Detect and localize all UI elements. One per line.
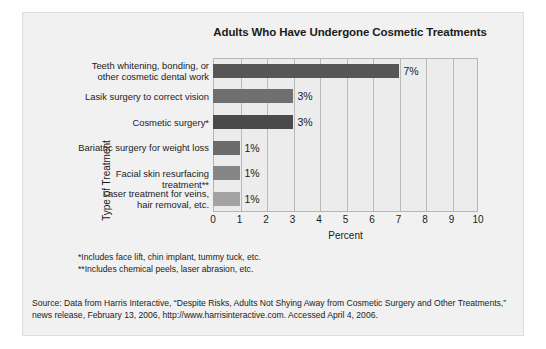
y-axis-category-label: Facial skin resurfacing treatment** — [78, 168, 209, 190]
bar-row: 1% — [213, 186, 478, 212]
x-axis-title: Percent — [213, 230, 478, 241]
y-axis-category-line: Teeth whitening, bonding, or — [78, 60, 209, 71]
x-axis-tick-label: 5 — [333, 214, 359, 225]
x-axis-tick-label: 3 — [280, 214, 306, 225]
y-axis-category-line: other cosmetic dental work — [78, 71, 209, 82]
bar — [213, 192, 240, 206]
x-axis-ticks: 012345678910 — [213, 214, 478, 228]
y-axis-category-line: Lasik surgery to correct vision — [78, 91, 209, 102]
footnote: *Includes face lift, chin implant, tummy… — [78, 252, 261, 264]
bar — [213, 166, 240, 180]
y-axis-category-line: Laser treatment for veins, — [78, 188, 209, 199]
y-axis-category-label: Bariatric surgery for weight loss — [78, 142, 209, 153]
x-axis-tick-label: 4 — [306, 214, 332, 225]
bar-row: 7% — [213, 58, 478, 84]
bar — [213, 89, 293, 103]
footnotes: *Includes face lift, chin implant, tummy… — [78, 252, 261, 275]
y-axis-category-label: Teeth whitening, bonding, orother cosmet… — [78, 60, 209, 82]
bar-row: 3% — [213, 84, 478, 110]
bar-value-label: 3% — [298, 90, 313, 102]
y-axis-category-line: hair removal, etc. — [78, 199, 209, 210]
source-citation: Source: Data from Harris Interactive, “D… — [32, 297, 512, 321]
bar-series: 7%3%3%1%1%1% — [213, 58, 478, 212]
y-axis-category-line: Bariatric surgery for weight loss — [78, 142, 209, 153]
x-axis-tick-label: 9 — [439, 214, 465, 225]
bar-row: 1% — [213, 161, 478, 187]
bar — [213, 115, 293, 129]
y-axis-category-label: Lasik surgery to correct vision — [78, 91, 209, 102]
x-axis-tick-label: 2 — [253, 214, 279, 225]
bar-value-label: 3% — [298, 116, 313, 128]
y-axis-category-label: Laser treatment for veins,hair removal, … — [78, 188, 209, 210]
y-axis-category-line: Cosmetic surgery* — [78, 117, 209, 128]
x-axis-tick-label: 0 — [200, 214, 226, 225]
chart-figure: Adults Who Have Undergone Cosmetic Treat… — [0, 0, 546, 349]
y-axis-category-label: Cosmetic surgery* — [78, 117, 209, 128]
x-axis-tick-label: 10 — [465, 214, 491, 225]
y-axis-category-line: Facial skin resurfacing treatment** — [78, 168, 209, 190]
bar — [213, 64, 399, 78]
x-axis-tick-label: 7 — [386, 214, 412, 225]
bar-value-label: 1% — [245, 167, 260, 179]
bar-value-label: 7% — [404, 65, 419, 77]
chart-title: Adults Who Have Undergone Cosmetic Treat… — [200, 26, 500, 39]
x-axis-tick-label: 1 — [227, 214, 253, 225]
footnote: **Includes chemical peels, laser abrasio… — [78, 264, 261, 276]
y-axis-category-labels: Teeth whitening, bonding, orother cosmet… — [78, 58, 209, 212]
bar-value-label: 1% — [245, 142, 260, 154]
bar-row: 3% — [213, 109, 478, 135]
x-axis-tick-label: 6 — [359, 214, 385, 225]
bar-row: 1% — [213, 135, 478, 161]
x-axis-tick-label: 8 — [412, 214, 438, 225]
bar-value-label: 1% — [245, 193, 260, 205]
bar — [213, 141, 240, 155]
